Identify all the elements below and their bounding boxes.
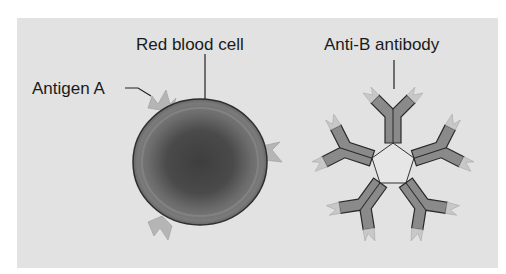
red-blood-cell: [133, 99, 267, 225]
antigen-a-label: Antigen A: [32, 80, 105, 97]
antigen-leader-line: [125, 88, 151, 96]
red-blood-cell-label: Red blood cell: [136, 36, 244, 53]
antigen-bottom-left: [148, 216, 172, 240]
anti-b-antibody: [310, 87, 477, 246]
anti-b-antibody-label: Anti-B antibody: [324, 36, 439, 53]
